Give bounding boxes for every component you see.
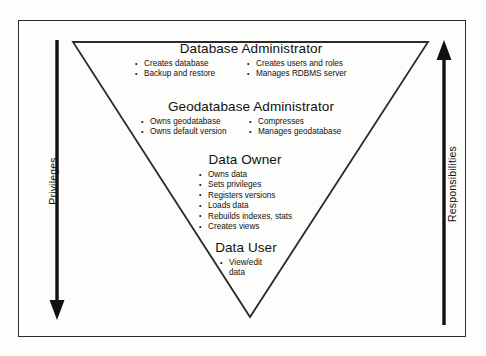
bullet-column-left: Creates database Backup and restore	[135, 59, 247, 80]
bullet-column-single: Owns data Sets privileges Registers vers…	[199, 170, 291, 232]
bullet-column-right: Creates users and roles Manages RDBMS se…	[247, 59, 367, 80]
list-item: Loads data	[199, 201, 291, 211]
list-item: Owns default version	[141, 127, 249, 137]
list-item: Creates users and roles	[247, 59, 367, 69]
list-item: Manages geodatabase	[249, 127, 361, 137]
section-title: Database Administrator	[120, 41, 382, 56]
section-data-user: Data User View/edit data	[178, 240, 314, 278]
list-item: View/edit data	[220, 258, 271, 278]
section-bullet-columns: Owns data Sets privileges Registers vers…	[155, 170, 335, 232]
section-title: Data User	[178, 240, 314, 255]
list-item: Creates database	[135, 59, 247, 69]
section-geodatabase-administrator: Geodatabase Administrator Owns geodataba…	[130, 99, 372, 138]
list-item: Compresses	[249, 117, 361, 127]
axis-label-privileges: Privileges	[47, 121, 59, 241]
section-bullet-columns: View/edit data	[178, 258, 314, 278]
diagram-canvas: Database Administrator Creates database …	[0, 0, 486, 356]
bullet-column-single: View/edit data	[220, 258, 272, 278]
list-item: Owns geodatabase	[141, 117, 249, 127]
bullet-column-left: Owns geodatabase Owns default version	[141, 117, 249, 138]
list-item: Sets privileges	[199, 180, 291, 190]
section-title: Geodatabase Administrator	[130, 99, 372, 114]
axis-label-responsibilities: Responsibilities	[446, 124, 458, 244]
section-data-owner: Data Owner Owns data Sets privileges Reg…	[155, 152, 335, 232]
list-item: Creates views	[199, 222, 291, 232]
section-title: Data Owner	[155, 152, 335, 167]
list-item: Rebuilds indexes, stats	[199, 212, 291, 222]
list-item: Owns data	[199, 170, 291, 180]
list-item: Backup and restore	[135, 69, 247, 79]
bullet-column-right: Compresses Manages geodatabase	[249, 117, 361, 138]
list-item: Registers versions	[199, 191, 291, 201]
section-bullet-columns: Owns geodatabase Owns default version Co…	[130, 117, 372, 138]
list-item: Manages RDBMS server	[247, 69, 367, 79]
section-database-administrator: Database Administrator Creates database …	[120, 41, 382, 80]
section-bullet-columns: Creates database Backup and restore Crea…	[120, 59, 382, 80]
